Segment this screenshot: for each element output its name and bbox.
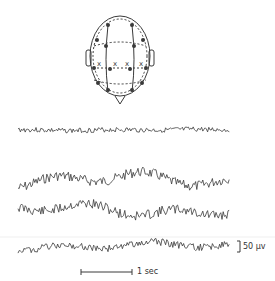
svg-text:x: x [139, 60, 143, 68]
trace-1 [18, 127, 229, 133]
svg-text:x: x [113, 60, 117, 68]
eeg-figure: xx xx [0, 0, 275, 281]
time-scale-bar [81, 269, 132, 275]
trace-3 [18, 200, 229, 221]
svg-text:x: x [97, 60, 101, 68]
amplitude-scale-bar [237, 241, 240, 252]
amplitude-scale-label: 50 μv [243, 242, 266, 251]
svg-text:x: x [125, 60, 129, 68]
eeg-traces [18, 127, 229, 253]
trace-4 [18, 239, 229, 254]
electrode-x-markers: xx xx [97, 60, 143, 68]
time-scale-label: 1 sec [137, 267, 158, 276]
trace-2 [18, 167, 229, 190]
